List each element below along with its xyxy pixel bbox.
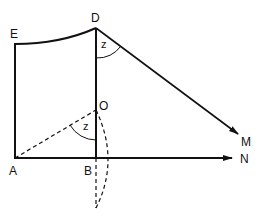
- arrow-d-m: [96, 28, 238, 134]
- label-angle-z-d: z: [101, 38, 107, 50]
- angle-arc-d: [96, 46, 121, 58]
- label-point-o: O: [99, 99, 108, 113]
- label-point-e: E: [10, 27, 18, 41]
- label-point-n: N: [240, 152, 249, 166]
- label-point-m: M: [241, 135, 251, 149]
- diagram-canvas: E D O A B M N z z: [0, 0, 258, 220]
- curve-e-d: [15, 28, 96, 44]
- label-point-d: D: [91, 11, 100, 25]
- label-point-b: B: [84, 164, 92, 178]
- label-point-a: A: [9, 164, 17, 178]
- dashed-line-a-o: [15, 110, 96, 158]
- label-angle-z-o: z: [83, 120, 89, 132]
